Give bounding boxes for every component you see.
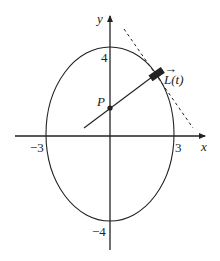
tick-x-3: 3 bbox=[175, 140, 182, 155]
point-p bbox=[107, 105, 112, 110]
tick-x-neg3: −3 bbox=[30, 140, 44, 155]
tick-y-4: 4 bbox=[101, 50, 108, 65]
vector-label: L(t) bbox=[163, 72, 184, 87]
vector-marker bbox=[149, 67, 165, 81]
tick-y-neg4: −4 bbox=[92, 224, 106, 239]
ellipse-diagram: y x 4 −4 −3 3 P → L(t) bbox=[0, 0, 220, 261]
y-axis-label: y bbox=[95, 11, 103, 26]
vector-line bbox=[84, 74, 156, 128]
x-axis-label: x bbox=[200, 139, 207, 154]
point-p-label: P bbox=[96, 94, 105, 109]
